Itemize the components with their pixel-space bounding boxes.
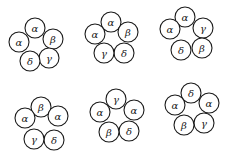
subunit-label: α — [16, 37, 23, 48]
subunit-label: β — [198, 43, 205, 54]
subunit-label: γ — [201, 118, 207, 129]
subunit-circle: β — [118, 22, 138, 42]
subunit-label: β — [180, 120, 187, 131]
subunit-label: γ — [200, 23, 206, 34]
subunit-label: γ — [31, 134, 37, 145]
subunit-circle: δ — [20, 51, 40, 71]
subunit-circle: γ — [194, 113, 214, 133]
subunit-label: α — [22, 113, 29, 124]
subunit-circle: α — [90, 102, 110, 122]
subunit-label: α — [131, 105, 138, 116]
pentamer-arrangement-2: αβδγα — [85, 12, 138, 63]
subunit-label: δ — [126, 126, 132, 137]
subunit-label: α — [206, 98, 213, 109]
subunit-circle: α — [48, 106, 68, 126]
subunit-circle: β — [99, 122, 119, 142]
subunit-label: δ — [27, 56, 33, 67]
pentamer-arrangement-5: γαδβα — [90, 89, 144, 142]
subunit-circle: δ — [171, 40, 191, 60]
subunit-label: α — [97, 107, 104, 118]
subunit-label: β — [49, 34, 56, 45]
subunit-circle: δ — [119, 121, 139, 141]
pentamer-arrangement-6: δαγβα — [165, 83, 219, 135]
subunit-circle: α — [165, 95, 185, 115]
pentamer-arrangement-4: βαδγα — [15, 97, 68, 150]
pentamer-arrangement-1: αβγδα — [9, 18, 63, 71]
subunit-label: δ — [121, 48, 127, 59]
subunit-circle: α — [199, 93, 219, 113]
subunit-circle: γ — [193, 18, 213, 38]
subunit-circle: β — [192, 38, 212, 58]
subunit-label: γ — [113, 94, 119, 105]
subunit-circle: α — [25, 18, 45, 38]
subunit-circle: α — [124, 100, 144, 120]
subunit-circle: β — [174, 115, 194, 135]
subunit-label: α — [92, 29, 99, 40]
subunit-label: β — [105, 127, 112, 138]
subunit-label: α — [55, 111, 62, 122]
subunit-circle: γ — [24, 129, 44, 149]
subunit-label: α — [32, 23, 39, 34]
pentamer-arrangement-3: αγβδα — [160, 7, 213, 60]
subunit-label: α — [182, 12, 189, 23]
subunit-circle: γ — [39, 48, 59, 68]
subunit-label: β — [124, 27, 131, 38]
subunit-label: β — [37, 102, 44, 113]
subunit-label: α — [172, 100, 179, 111]
subunit-circle: δ — [114, 43, 134, 63]
subunit-label: δ — [188, 88, 194, 99]
subunit-circle: α — [9, 32, 29, 52]
subunit-circle: γ — [106, 89, 126, 109]
pentamer-diagram: αβγδααβδγααγβδαβαδγαγαδβαδαγβα — [0, 0, 229, 155]
subunit-label: α — [167, 24, 174, 35]
subunit-circle: δ — [44, 130, 64, 150]
subunit-circle: α — [85, 24, 105, 44]
subunit-circle: α — [15, 108, 35, 128]
subunit-label: γ — [101, 48, 107, 59]
subunit-circle: β — [43, 29, 63, 49]
subunit-label: δ — [51, 135, 57, 146]
subunit-circle: γ — [94, 43, 114, 63]
subunit-label: δ — [178, 45, 184, 56]
subunit-label: γ — [46, 53, 52, 64]
subunit-circle: α — [160, 19, 180, 39]
subunit-label: α — [108, 17, 115, 28]
